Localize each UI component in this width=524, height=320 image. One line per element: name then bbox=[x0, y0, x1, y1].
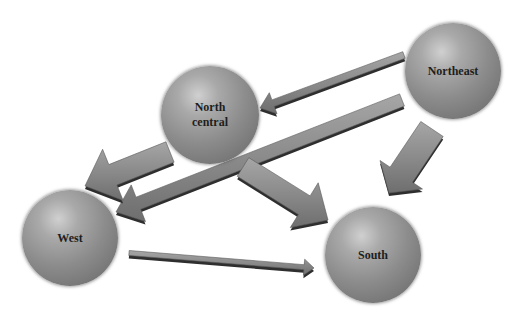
arrow-northeast-to-south bbox=[380, 122, 443, 194]
node-label-west: West bbox=[57, 231, 82, 246]
arrow-west-to-south bbox=[129, 251, 314, 276]
node-label-northeast: Northeast bbox=[428, 64, 479, 79]
node-north-central: North central bbox=[161, 66, 259, 164]
node-label-north-central: North central bbox=[192, 100, 228, 130]
node-west: West bbox=[22, 190, 118, 286]
arrow-north_central-to-south bbox=[237, 158, 328, 228]
node-label-south: South bbox=[358, 248, 388, 263]
node-south: South bbox=[325, 207, 421, 303]
node-northeast: Northeast bbox=[405, 23, 501, 119]
